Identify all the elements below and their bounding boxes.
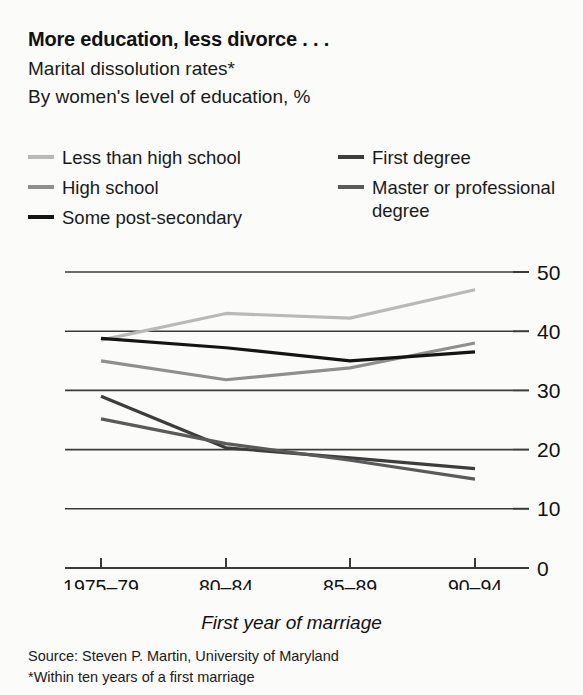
series-line [101,343,475,380]
x-axis-tick-label: 80–84 [199,576,253,590]
legend-swatch-icon [28,185,54,189]
y-axis-labels: 01020304050 [537,261,560,580]
x-axis-tick-label: 90–94 [448,576,502,590]
legend-item-some-post-secondary: Some post-secondary [28,206,242,229]
legend-label: Master or professional degree [372,176,568,222]
legend-label: Less than high school [62,146,241,169]
legend-swatch-icon [338,155,364,159]
data-series-group [101,290,475,479]
page-title: More education, less divorce . . . [28,28,329,51]
y-axis-tick-label: 20 [537,438,560,461]
series-line [101,338,475,360]
line-chart: 01020304050 1975–7980–8485–8990–94 [0,250,583,590]
chart-page: More education, less divorce . . . Marit… [0,0,583,695]
y-axis-tick-label: 30 [537,379,560,402]
y-axis-ticks [513,272,529,568]
source-note: Source: Steven P. Martin, University of … [28,648,339,664]
x-axis-labels: 1975–7980–8485–8990–94 [63,576,502,590]
y-axis-tick-label: 0 [537,557,549,580]
legend-item-high-school: High school [28,176,159,199]
legend-swatch-icon [338,185,364,189]
footnote: *Within ten years of a first marriage [28,669,254,685]
legend-item-master-or-professional-degree: Master or professional degree [338,176,568,222]
x-axis-tick-label: 85–89 [323,576,377,590]
series-line [101,290,475,340]
y-axis-tick-label: 10 [537,497,560,520]
legend-label: High school [62,176,159,199]
series-line [101,396,475,468]
x-axis-ticks [101,558,475,568]
y-axis-tick-label: 50 [537,261,560,284]
legend-swatch-icon [28,155,54,159]
legend-label: Some post-secondary [62,206,242,229]
chart-svg: 01020304050 1975–7980–8485–8990–94 [0,250,583,590]
subtitle-primary: Marital dissolution rates* [28,58,235,80]
legend-item-less-than-high-school: Less than high school [28,146,241,169]
legend-swatch-icon [28,215,54,219]
y-axis-tick-label: 40 [537,320,560,343]
x-axis-caption: First year of marriage [0,612,583,634]
legend-label: First degree [372,146,471,169]
subtitle-secondary: By women's level of education, % [28,86,310,108]
legend-item-first-degree: First degree [338,146,471,169]
x-axis-tick-label: 1975–79 [63,576,139,590]
chart-legend: Less than high school High school Some p… [28,146,568,238]
